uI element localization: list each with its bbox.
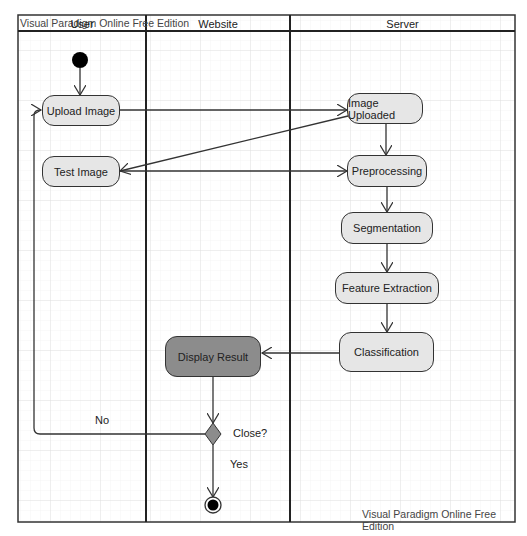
diagram-canvas bbox=[0, 0, 527, 536]
activity-feature-extraction[interactable]: Feature Extraction bbox=[335, 272, 439, 304]
activity-upload-image[interactable]: Upload Image bbox=[42, 95, 120, 126]
decision-label: Close? bbox=[233, 427, 267, 439]
lane-title-website: Website bbox=[146, 15, 290, 33]
watermark-bottom: Visual Paradigm Online Free Edition bbox=[362, 508, 527, 532]
guard-yes-label: Yes bbox=[230, 458, 248, 470]
guard-no-label: No bbox=[95, 414, 109, 426]
start-node[interactable] bbox=[72, 52, 88, 68]
activity-classification[interactable]: Classification bbox=[339, 332, 434, 372]
lane-title-user: User bbox=[18, 15, 146, 33]
activity-segmentation[interactable]: Segmentation bbox=[341, 212, 433, 244]
activity-test-image[interactable]: Test Image bbox=[42, 156, 120, 187]
lane-title-server: Server bbox=[290, 15, 515, 33]
activity-preprocessing[interactable]: Preprocessing bbox=[347, 155, 427, 187]
activity-display-result[interactable]: Display Result bbox=[165, 336, 261, 377]
end-node[interactable] bbox=[205, 497, 221, 513]
activity-image-uploaded[interactable]: Image Uploaded bbox=[347, 93, 423, 124]
